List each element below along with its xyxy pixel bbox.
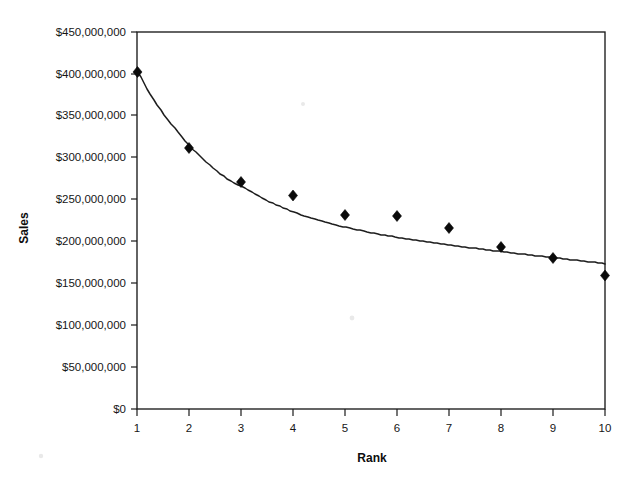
y-tick-label: $0 [113,403,126,415]
x-tick-label: 9 [550,422,556,434]
y-tick-label: $300,000,000 [56,151,126,163]
y-axis-title: Sales [17,212,31,244]
x-tick-label: 5 [342,422,348,434]
y-tick-label: $100,000,000 [56,319,126,331]
scan-speck [301,102,305,106]
x-tick-label: 2 [186,422,192,434]
y-tick-label: $250,000,000 [56,193,126,205]
scan-speck [39,454,43,458]
y-tick-label: $50,000,000 [62,361,126,373]
x-tick-label: 6 [394,422,400,434]
x-tick-label: 8 [498,422,504,434]
plot-area-background [137,32,605,409]
y-tick-label: $200,000,000 [56,235,126,247]
x-tick-label: 4 [290,422,297,434]
scan-speck [350,316,355,321]
y-tick-label: $400,000,000 [56,68,126,80]
y-tick-label: $450,000,000 [56,26,126,38]
x-axis-title: Rank [357,451,387,465]
x-tick-label: 7 [446,422,452,434]
sales-rank-scatter-chart: $0 $50,000,000 $100,000,000 $150,000,000… [0,0,632,483]
y-tick-label: $350,000,000 [56,109,126,121]
x-tick-label: 3 [238,422,244,434]
x-tick-label: 10 [599,422,612,434]
x-tick-label: 1 [134,422,140,434]
chart-figure: $0 $50,000,000 $100,000,000 $150,000,000… [0,0,632,483]
y-tick-label: $150,000,000 [56,277,126,289]
